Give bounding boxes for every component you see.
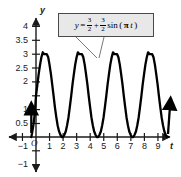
sinusoid-figure: y = 3 2 + 3 2 sin ( π t ) 4 3.5 3 2.5 2 … [0,0,181,177]
x-tick-label-3: 3 [72,142,82,151]
equation-equals: = [80,20,85,30]
frac2-numerator: 3 [100,17,106,24]
sine-curve [31,52,168,137]
frac2-denominator: 2 [100,26,106,33]
curve-arrow-right [168,99,171,134]
equation-sin: sin [107,20,118,30]
y-axis-label: y [40,6,45,15]
y-tick-label-4: 4 [8,22,28,31]
x-tick-label-2: 2 [58,142,68,151]
equation-callout: y = 3 2 + 3 2 sin ( π t ) [58,13,154,37]
x-axis-label: t [170,142,173,151]
y-tick-label-2-5: 2.5 [4,64,28,73]
equation-variable: t [130,20,133,30]
x-tick-label-6: 6 [112,142,122,151]
y-tick-label-3: 3 [8,50,28,59]
y-tick-label-2: 2 [8,77,28,86]
equation-pi: π [124,20,129,30]
x-tick-label-9: 9 [153,142,163,151]
equation-paren-close: ) [134,20,137,30]
x-tick-label-8: 8 [139,142,149,151]
equation-paren-open: ( [119,20,122,30]
y-tick-label-0-5: 0.5 [4,119,28,128]
x-tick-label-5: 5 [99,142,109,151]
equation-text: y = 3 2 + 3 2 sin ( π t ) [75,17,138,33]
origin-label: O [31,138,38,148]
x-tick-label-7: 7 [126,142,136,151]
y-tick-label-neg1: −1 [4,160,28,169]
fraction-three-halves-1: 3 2 [87,17,93,33]
equation-plus: + [94,20,99,30]
y-tick-label-1: 1 [8,105,28,114]
x-tick-label-4: 4 [85,142,95,151]
fraction-three-halves-2: 3 2 [100,17,106,33]
x-tick-label-1: 1 [45,142,55,151]
frac1-numerator: 3 [87,17,93,24]
x-tick-label-neg1: −1 [14,142,32,151]
frac1-denominator: 2 [87,26,93,33]
y-tick-label-3-5: 3.5 [4,36,28,45]
equation-lhs: y [75,20,79,30]
